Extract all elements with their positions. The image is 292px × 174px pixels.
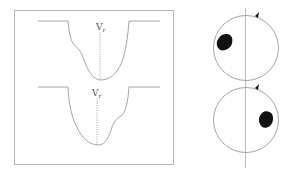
vr-label-bottom: Vr (91, 88, 102, 99)
star-spot-bottom (259, 111, 273, 128)
vr-label-top: Vr (95, 22, 106, 33)
star-spot-top (217, 34, 233, 50)
figure: Vr Vr (0, 0, 292, 174)
